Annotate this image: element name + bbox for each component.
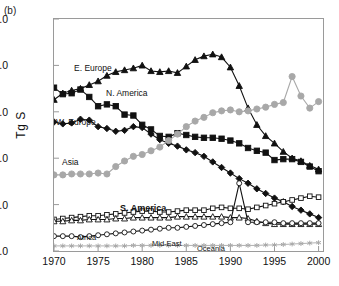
x-tick-label: 1985 <box>175 255 198 267</box>
plot-area <box>53 18 324 252</box>
y-tick-label: 15.0 <box>0 106 8 118</box>
series-label-oceania: Oceania <box>197 244 225 253</box>
panel-label: (b) <box>4 5 16 16</box>
chart-canvas <box>54 19 323 251</box>
x-tick-label: 1990 <box>219 255 242 267</box>
series-label-mid-east: Mid-East <box>152 239 182 248</box>
series-label-asia: Asia <box>62 157 79 167</box>
x-tick-label: 1975 <box>86 255 109 267</box>
figure-panel-b: (b) Tg S 0.05.010.015.020.025.0 19701975… <box>0 0 339 286</box>
x-tick-label: 1970 <box>42 255 65 267</box>
series-w-europe <box>54 116 322 221</box>
y-tick-label: 5.0 <box>0 199 8 211</box>
y-tick-label: 0.0 <box>0 245 8 257</box>
y-axis-label: Tg S <box>14 95 28 155</box>
x-tick-label: 2000 <box>307 255 330 267</box>
series-label-n-america: N. America <box>106 88 148 98</box>
x-tick-label: 1980 <box>131 255 154 267</box>
series-label-s-america: S. America <box>120 203 166 213</box>
series-label-w-europe: W. Europe <box>56 117 96 127</box>
y-tick-label: 10.0 <box>0 152 8 164</box>
series-label-africa: Africa <box>77 233 96 242</box>
x-tick-label: 1995 <box>263 255 286 267</box>
series-label-e-europe: E. Europe <box>74 63 112 73</box>
y-tick-label: 20.0 <box>0 59 8 71</box>
